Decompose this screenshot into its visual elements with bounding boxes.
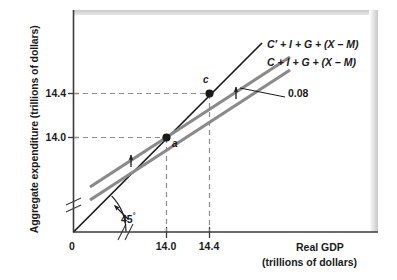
point-label-c: c [203, 75, 209, 85]
y-tick-label-14-4: 14.4 [24, 88, 66, 99]
shift-amount-label: 0.08 [288, 88, 308, 99]
x-axis-title-line2: (trillions of dollars) [262, 257, 357, 268]
y-axis-title: Aggregate expenditure (trillions of doll… [29, 24, 40, 234]
aggregate-expenditure-chart: Aggregate expenditure (trillions of doll… [0, 0, 397, 280]
curve-label-c: C + I + G + (X – M) [267, 57, 356, 68]
degree-symbol: ° [133, 212, 136, 219]
x-tick-label-origin: 0 [52, 241, 92, 252]
x-axis-title-line1: Real GDP [296, 242, 344, 253]
forty-five-degree-label: 45° [121, 212, 136, 224]
y-tick-label-14-0: 14.0 [24, 132, 66, 143]
forty-five-degree-value: 45 [121, 213, 133, 225]
point-label-a: a [172, 139, 178, 149]
point-a-marker [162, 133, 170, 141]
curve-label-c-prime: C′ + I + G + (X – M) [267, 39, 359, 50]
point-c-marker [205, 89, 213, 97]
x-tick-label-14-4: 14.4 [189, 241, 229, 252]
x-tick-label-14-0: 14.0 [146, 241, 186, 252]
